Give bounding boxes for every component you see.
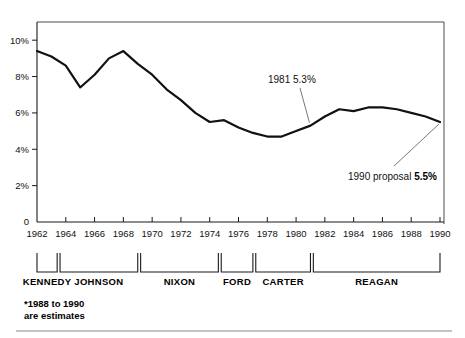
x-tick-label: 1984 <box>343 228 364 239</box>
x-tick-label: 1988 <box>401 228 422 239</box>
x-tick-label: 1986 <box>372 228 393 239</box>
footnote: *1988 to 1990are estimates <box>24 298 85 321</box>
x-tick-label: 1980 <box>286 228 307 239</box>
defense-spending-line-chart: 10%8%6%4%2%01962196419661968197019721974… <box>0 0 465 338</box>
x-axis-ticks: 1962196419661968197019721974197619781980… <box>26 217 450 239</box>
president-bracket-nixon <box>141 253 219 272</box>
x-tick-label: 1990 <box>429 228 450 239</box>
y-tick-label: 4% <box>15 144 29 155</box>
frame-border <box>37 22 444 224</box>
president-bracket-johnson <box>60 253 138 272</box>
president-bracket-kennedy <box>37 253 57 272</box>
data-series-group <box>37 51 440 136</box>
y-tick-label: 2% <box>15 180 29 191</box>
x-tick-label: 1972 <box>170 228 191 239</box>
plot-frame <box>37 22 444 224</box>
x-tick-label: 1974 <box>199 228 220 239</box>
annotations: 1981 5.3%1990 proposal 5.5% <box>268 74 439 182</box>
y-tick-label: 0 <box>24 216 29 227</box>
y-tick-label: 10% <box>10 35 30 46</box>
axes <box>37 22 444 222</box>
president-label-nixon: NIXON <box>164 276 196 287</box>
x-tick-label: 1962 <box>26 228 47 239</box>
president-bracket-reagan <box>313 253 440 272</box>
president-brackets: KENNEDYJOHNSONNIXONFORDCARTERREAGAN <box>23 253 440 287</box>
x-tick-label: 1966 <box>84 228 105 239</box>
president-label-johnson: JOHNSON <box>74 276 123 287</box>
x-tick-label: 1982 <box>314 228 335 239</box>
x-tick-label: 1978 <box>257 228 278 239</box>
annotation-1981-leader-line <box>300 88 309 123</box>
y-tick-label: 6% <box>15 107 29 118</box>
annotation-1981-label: 1981 5.3% <box>268 74 316 85</box>
president-label-carter: CARTER <box>262 276 303 287</box>
president-bracket-ford <box>221 253 253 272</box>
president-label-ford: FORD <box>223 276 251 287</box>
y-tick-label: 8% <box>15 71 29 82</box>
president-label-reagan: REAGAN <box>355 276 398 287</box>
footnote-line-1: *1988 to 1990 <box>24 298 84 309</box>
footnote-line-2: are estimates <box>24 310 85 321</box>
x-tick-label: 1964 <box>55 228 76 239</box>
data-line-series-0 <box>37 51 440 136</box>
annotation-1990-label: 1990 proposal 5.5% <box>348 171 437 182</box>
annotation-1990-leader-line <box>394 124 439 166</box>
chart-page: 10%8%6%4%2%01962196419661968197019721974… <box>0 0 465 338</box>
x-tick-label: 1968 <box>113 228 134 239</box>
president-label-kennedy: KENNEDY <box>23 276 72 287</box>
x-tick-label: 1976 <box>228 228 249 239</box>
president-bracket-carter <box>256 253 311 272</box>
x-tick-label: 1970 <box>142 228 163 239</box>
y-axis-ticks: 10%8%6%4%2%0 <box>10 35 37 228</box>
